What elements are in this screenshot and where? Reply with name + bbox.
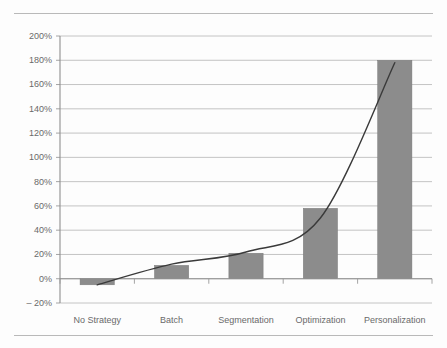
bar-chart: 200%180%160%140%120%100%80%60%40%20%0%– … (0, 18, 447, 330)
x-axis-category-labels: No StrategyBatchSegmentationOptimization… (73, 315, 425, 325)
y-axis-tick-marks (56, 36, 60, 303)
chart-figure: 200%180%160%140%120%100%80%60%40%20%0%– … (0, 18, 447, 330)
bottom-horizontal-rule (14, 335, 433, 336)
y-tick-label: 20% (34, 249, 52, 259)
y-tick-label: 80% (34, 177, 52, 187)
x-category-label: No Strategy (73, 315, 121, 325)
y-tick-label: 200% (29, 31, 52, 41)
y-tick-label: 0% (39, 274, 52, 284)
y-tick-label: 180% (29, 55, 52, 65)
bars (80, 60, 412, 285)
trend-line (97, 63, 395, 285)
chart-page: 200%180%160%140%120%100%80%60%40%20%0%– … (0, 0, 447, 348)
y-tick-label: – 20% (26, 298, 52, 308)
x-category-label: Batch (160, 315, 183, 325)
y-tick-label: 120% (29, 128, 52, 138)
y-tick-label: 40% (34, 225, 52, 235)
x-category-label: Personalization (364, 315, 426, 325)
y-tick-label: 160% (29, 79, 52, 89)
x-category-label: Segmentation (218, 315, 274, 325)
trend-curve (97, 63, 395, 285)
y-tick-label: 100% (29, 152, 52, 162)
x-category-label: Optimization (295, 315, 345, 325)
y-tick-label: 140% (29, 104, 52, 114)
top-horizontal-rule (14, 13, 433, 14)
y-tick-label: 60% (34, 201, 52, 211)
bar (229, 253, 263, 278)
bar (378, 60, 412, 278)
y-axis-tick-labels: 200%180%160%140%120%100%80%60%40%20%0%– … (26, 31, 52, 308)
